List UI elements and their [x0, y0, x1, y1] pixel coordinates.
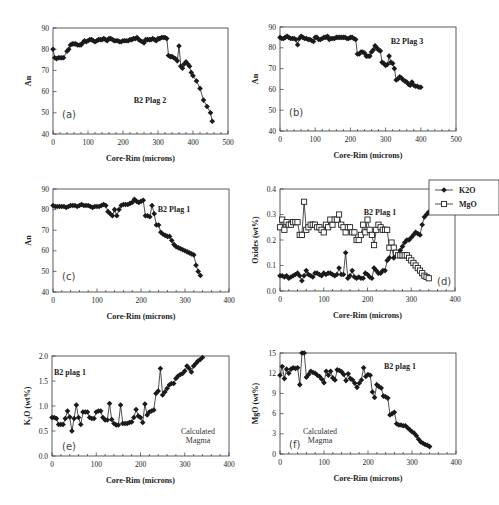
marker-diamond-filled: [204, 104, 210, 110]
x-tick-label: 0: [278, 458, 282, 467]
marker-diamond-filled: [392, 66, 398, 72]
marker-square-open: [426, 276, 431, 281]
x-tick-label: 300: [406, 458, 418, 467]
marker-diamond-filled: [349, 268, 355, 274]
marker-diamond-filled: [50, 46, 56, 52]
marker-square-open: [282, 227, 287, 232]
x-tick-label: 0: [50, 460, 54, 469]
x-axis-title: Core-Rim (microns): [333, 311, 402, 320]
marker-diamond-filled: [282, 376, 288, 382]
x-tick-label: 100: [91, 296, 103, 305]
panel-f: 010020030040003691215Core-Rim (microns)M…: [251, 349, 462, 483]
y-tick-label: 1.0: [39, 402, 49, 411]
panel-e: 01002003004000.00.51.01.52.0Core-Rim (mi…: [23, 352, 235, 485]
y-tick-label: 70: [42, 66, 50, 75]
marker-square-open: [295, 220, 300, 225]
panel-d: 01002003004000.00.10.20.30.4Core-Rim (mi…: [251, 180, 499, 320]
marker-diamond-filled: [197, 86, 203, 92]
x-tick-label: 300: [179, 296, 191, 305]
y-axis-title: Oxides (wt%): [251, 216, 260, 264]
marker-square-open: [385, 227, 390, 232]
x-axis-title: Core-Rim (microns): [106, 154, 175, 163]
marker-diamond-filled: [114, 213, 120, 219]
x-tick-label: 400: [449, 295, 461, 304]
marker-diamond-filled: [301, 273, 307, 279]
x-axis-title: Core-Rim (microns): [106, 476, 175, 485]
x-tick-label: 100: [82, 138, 94, 147]
panel-letter-label: (d): [437, 276, 451, 287]
marker-square-open: [299, 232, 304, 237]
marker-diamond-filled: [142, 401, 148, 407]
x-tick-label: 100: [318, 458, 330, 467]
marker-diamond-filled: [158, 366, 164, 372]
y-tick-label: 40: [42, 130, 50, 139]
sample-label: B2 plag 1: [384, 362, 416, 371]
marker-diamond-filled: [295, 42, 301, 48]
marker-diamond-filled: [419, 222, 425, 228]
x-tick-label: 300: [406, 295, 418, 304]
marker-diamond-filled: [65, 408, 71, 414]
marker-square-open: [389, 240, 394, 245]
panel-letter-label: (a): [62, 109, 76, 120]
y-tick-label: 0.0: [39, 452, 49, 461]
y-tick-label: 40: [42, 288, 50, 297]
y-axis-title: An: [24, 75, 33, 86]
x-tick-label: 0: [51, 138, 55, 147]
marker-diamond-filled: [133, 407, 139, 413]
y-tick-label: 6: [272, 409, 276, 418]
y-tick-label: 50: [42, 108, 50, 117]
y-tick-label: 0: [272, 450, 276, 459]
marker-square-open: [367, 227, 372, 232]
marker-square-open: [365, 217, 370, 222]
x-tick-label: 200: [345, 135, 357, 144]
marker-square-open: [371, 243, 376, 248]
y-tick-label: 9: [272, 389, 276, 398]
y-tick-label: 2.0: [39, 352, 49, 361]
marker-diamond-filled: [370, 389, 376, 395]
panel-letter-label: (f): [289, 439, 300, 450]
sample-label: B2 Plag 2: [134, 96, 166, 105]
x-axis-title: Core-Rim (microns): [334, 474, 403, 483]
marker-diamond-filled: [176, 43, 182, 49]
marker-diamond-filled: [297, 382, 303, 388]
marker-diamond-filled: [76, 415, 82, 421]
y-tick-label: 60: [42, 246, 50, 255]
marker-square-open: [334, 217, 339, 222]
x-tick-label: 100: [318, 295, 330, 304]
marker-square-open: [441, 201, 446, 206]
marker-diamond-filled: [151, 211, 157, 217]
y-tick-label: 90: [42, 24, 50, 33]
marker-diamond-filled: [62, 416, 68, 422]
calculated-magma-label: Calculated: [181, 427, 215, 436]
marker-square-open: [352, 230, 357, 235]
plot-frame: [280, 27, 456, 131]
x-tick-label: 400: [187, 138, 199, 147]
x-tick-label: 400: [450, 458, 462, 467]
x-tick-label: 0: [278, 295, 282, 304]
y-tick-label: 90: [269, 23, 277, 32]
y-tick-label: 0.2: [267, 236, 277, 245]
marker-diamond-filled: [193, 262, 199, 268]
marker-diamond-filled: [118, 402, 124, 408]
y-axis-title: K₂O (wt%): [23, 386, 32, 425]
legend-label-mgo: MgO: [459, 200, 477, 209]
y-tick-label: 40: [269, 127, 277, 136]
x-axis-title: Core-Rim (microns): [334, 151, 403, 160]
y-tick-label: 80: [42, 205, 50, 214]
y-tick-label: 0.1: [267, 261, 277, 270]
y-axis-title: MgO (wt%): [251, 382, 260, 424]
marker-diamond-filled: [67, 414, 73, 420]
panel-b: 0100200300400500405060708090Core-Rim (mi…: [251, 23, 462, 160]
x-tick-label: 400: [223, 460, 235, 469]
marker-diamond-filled: [208, 110, 214, 116]
x-tick-label: 100: [310, 135, 322, 144]
sample-label: B2 plag 1: [54, 368, 86, 377]
x-tick-label: 500: [450, 135, 462, 144]
calculated-magma-label: Magma: [186, 436, 211, 445]
figure-canvas: 0100200300400500405060708090Core-Rim (mi…: [0, 0, 499, 505]
marker-diamond-filled: [361, 365, 367, 371]
y-tick-label: 80: [269, 43, 277, 52]
plot-frame: [280, 353, 456, 454]
marker-square-open: [343, 230, 348, 235]
calculated-magma-label: Calculated: [303, 427, 337, 436]
